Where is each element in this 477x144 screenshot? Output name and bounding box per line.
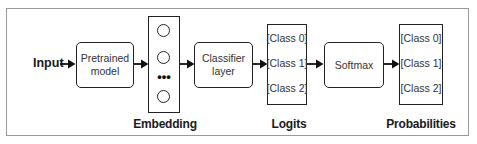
logits-class-1: [Class 1] [267,57,308,69]
embedding-circle-icon [157,90,170,103]
ellipsis-icon: ••• [157,72,171,82]
input-label: Input [33,56,64,70]
classifier-label-line2: layer [202,65,245,78]
embedding-circle-icon [157,24,170,37]
probabilities-class-1: [Class 1] [401,57,442,69]
logits-class-2: [Class 2] [267,82,308,94]
probabilities-class-0: [Class 0] [401,32,442,44]
pretrained-model-label-line1: Pretrained [81,52,129,65]
arrow-icon [307,59,324,69]
arrow-icon [60,59,76,69]
embedding-circle-icon [157,51,170,64]
softmax-label: Softmax [335,59,374,72]
softmax-box: Softmax [324,42,384,88]
logits-class-0: [Class 0] [267,32,308,44]
classifier-layer-box: Classifier layer [194,42,253,88]
arrow-icon [134,59,149,69]
probabilities-class-2: [Class 2] [401,82,442,94]
probabilities-label: Probabilities [386,117,455,131]
pretrained-model-box: Pretrained model [76,42,134,88]
arrow-icon [384,59,400,69]
classifier-label-line1: Classifier [202,52,245,65]
arrow-icon [180,59,195,69]
pretrained-model-label-line2: model [81,65,129,78]
logits-label: Logits [272,117,307,131]
embedding-label: Embedding [133,117,197,131]
